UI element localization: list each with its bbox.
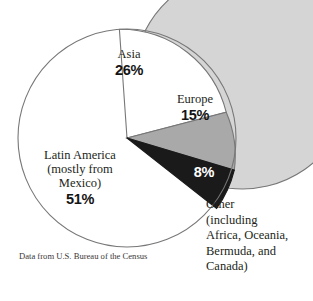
slice-label-latin-america-line3: Mexico) xyxy=(20,176,140,190)
other-caption-line2: (including xyxy=(206,213,310,229)
slice-label-other-percent: 8% xyxy=(186,164,222,180)
source-note: Data from U.S. Bureau of the Census xyxy=(19,251,199,261)
slice-label-latin-america: Latin America (mostly from Mexico) 51% xyxy=(20,148,140,207)
other-caption-line5: Canada) xyxy=(206,259,310,275)
other-caption-line3: Africa, Oceania, xyxy=(206,228,310,244)
pie-chart-figure: Sources of U.S. Immigration Asia 26% Eur… xyxy=(0,0,313,301)
slice-label-latin-america-line2: (mostly from xyxy=(20,162,140,176)
other-slice-caption: Other (including Africa, Oceania, Bermud… xyxy=(206,197,310,275)
slice-label-latin-america-line1: Latin America xyxy=(20,148,140,162)
slice-label-europe-percent: 15% xyxy=(160,107,230,123)
slice-label-other-percent-wrap: 8% xyxy=(186,163,222,180)
slice-label-latin-america-percent: 51% xyxy=(20,191,140,207)
other-caption-line4: Bermuda, and xyxy=(206,244,310,260)
slice-label-europe: Europe 15% xyxy=(160,92,230,123)
other-caption-line1: Other xyxy=(206,197,310,213)
slice-label-asia-percent: 26% xyxy=(89,62,169,78)
slice-label-asia: Asia 26% xyxy=(89,47,169,78)
slice-label-asia-name: Asia xyxy=(89,47,169,61)
slice-label-europe-name: Europe xyxy=(160,92,230,106)
